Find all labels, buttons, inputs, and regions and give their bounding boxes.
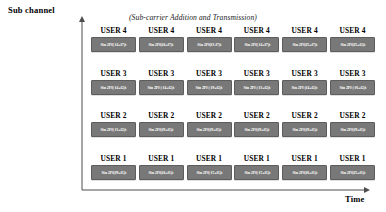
subcarrier-expression: Sin 2Pf(f9+f1)t [340,127,365,132]
subcarrier-expression: Sin 2Pf(f6+f1)t [292,170,317,175]
user-cell[interactable]: USER 1 Sin 2Pf(f5+f1)t [331,154,374,184]
subcarrier-expression: Sin 2Pf(f9+f1)t [197,127,222,132]
user-cell-label: USER 2 [148,111,174,120]
user-cell[interactable]: USER 3 Sin 2Pf( f4+f2)t [92,69,135,99]
user-cell-label: USER 3 [292,69,318,78]
user-cell-label: USER 3 [148,69,174,78]
subcarrier-expression: Sin 2Pf(f3-f7)t [197,42,221,47]
user-cell[interactable]: USER 3 Sin 2Pf ( f4+f2)t [140,69,183,99]
user-cell[interactable]: USER 4 Sin 2Pf(f4+f7)t [140,26,183,56]
subcarrier-expression: Sin 2Pf(f9+f1)t [101,170,126,175]
user-cell[interactable]: USER 2 Sin 2Pf(f9+f1)t [235,111,278,141]
diagram-canvas: Sub channel Time (Sub-carrier Addition a… [0,0,386,212]
user-cell[interactable]: USER 1 Sin 2Pf(f6+f1)t [283,154,326,184]
grid-row: USER 1 Sin 2Pf(f9+f1)t USER 1 Sin 2Pf(f4… [92,154,374,184]
grid-row: USER 3 Sin 2Pf( f4+f2)t USER 3 Sin 2Pf (… [92,69,374,99]
subcarrier-box[interactable]: Sin 2Pf ( f4+f2)t [139,80,184,95]
subcarrier-expression: Sin 2Pf(f9+f1)t [292,127,317,132]
resource-grid: USER 4 Sin 2Pf( f4+f7)t USER 4 Sin 2Pf(f… [92,26,374,184]
subcarrier-box[interactable]: Sin 2Pf ( f3+f2)t [234,80,279,95]
subcarrier-box[interactable]: Sin 2Pf( f4+f7)t [91,37,136,52]
user-cell[interactable]: USER 1 Sin 2Pf(f4+f1)t [140,154,183,184]
user-cell-label: USER 4 [292,26,318,35]
subcarrier-expression: Sin 2Pf(f4+f7)t [149,42,174,47]
subcarrier-expression: Sin 2Pf (f4+f2)t [292,85,318,90]
subcarrier-expression: Sin 2Pf(f4+f1)t [149,170,174,175]
subcarrier-expression: Sin 2Pf(f9+f1)t [149,127,174,132]
user-cell-label: USER 4 [196,26,222,35]
user-cell-label: USER 1 [339,154,365,163]
user-cell-label: USER 2 [100,111,126,120]
subcarrier-expression: Sin 2Pf( f4+f7)t [101,42,127,47]
subcarrier-box[interactable]: Sin 2Pf( f5+f1)t [187,165,232,180]
user-cell[interactable]: USER 3 Sin 2Pf (f4+f2)t [283,69,326,99]
user-cell-label: USER 2 [244,111,270,120]
subcarrier-box[interactable]: Sin 2Pf(f5+f2)t [330,37,375,52]
subcarrier-box[interactable]: Sin 2Pf ( f9+f2)t [187,80,232,95]
user-cell-label: USER 3 [339,69,365,78]
subcarrier-box[interactable]: Sin 2Pf(f6+f1)t [282,165,327,180]
x-axis-label: Time [345,194,365,204]
subcarrier-box[interactable]: Sin 2Pf ( f6+f2)t [330,80,375,95]
user-cell[interactable]: USER 4 Sin 2Pf(f5+f7)t [283,26,326,56]
user-cell[interactable]: USER 3 Sin 2Pf ( f9+f2)t [188,69,231,99]
subcarrier-box[interactable]: Sin 2Pf(f9+f1)t [330,122,375,137]
subcarrier-expression: Sin 2Pf(f5+f1)t [340,170,365,175]
subcarrier-expression: Sin 2Pf( f5+f1)t [196,170,222,175]
subcarrier-expression: Sin 2Pf(f5+f2)t [340,42,365,47]
user-cell[interactable]: USER 4 Sin 2Pf(f5+f2)t [331,26,374,56]
subcarrier-expression: Sin 2Pf( f4+f2)t [101,85,127,90]
subcarrier-box[interactable]: Sin 2Pf( f1+f2)t [91,122,136,137]
subcarrier-box[interactable]: Sin 2Pf( f5+f1)t [234,165,279,180]
user-cell-label: USER 4 [100,26,126,35]
subcarrier-box[interactable]: Sin 2Pf(f4+f1)t [139,165,184,180]
subcarrier-box[interactable]: Sin 2Pf( f4+f7)t [234,37,279,52]
subcarrier-expression: Sin 2Pf( f4+f7)t [244,42,270,47]
subcarrier-box[interactable]: Sin 2Pf(f5+f1)t [330,165,375,180]
subcarrier-expression: Sin 2Pf(f9+f1)t [244,127,269,132]
user-cell[interactable]: USER 3 Sin 2Pf ( f3+f2)t [235,69,278,99]
user-cell[interactable]: USER 2 Sin 2Pf(f9+f1)t [188,111,231,141]
user-cell[interactable]: USER 4 Sin 2Pf(f3-f7)t [188,26,231,56]
subcarrier-box[interactable]: Sin 2Pf( f4+f2)t [91,80,136,95]
subcarrier-box[interactable]: Sin 2Pf(f9+f1)t [91,165,136,180]
user-cell-label: USER 1 [292,154,318,163]
user-cell[interactable]: USER 4 Sin 2Pf( f4+f7)t [92,26,135,56]
subcarrier-expression: Sin 2Pf ( f9+f2)t [196,85,223,90]
user-cell-label: USER 1 [100,154,126,163]
user-cell-label: USER 2 [292,111,318,120]
user-cell[interactable]: USER 3 Sin 2Pf ( f6+f2)t [331,69,374,99]
user-cell-label: USER 1 [148,154,174,163]
grid-row: USER 2 Sin 2Pf( f1+f2)t USER 2 Sin 2Pf(f… [92,111,374,141]
user-cell-label: USER 1 [196,154,222,163]
user-cell[interactable]: USER 2 Sin 2Pf(f9+f1)t [140,111,183,141]
subcarrier-expression: Sin 2Pf ( f6+f2)t [339,85,366,90]
subcarrier-expression: Sin 2Pf ( f3+f2)t [243,85,270,90]
user-cell-label: USER 4 [244,26,270,35]
subcarrier-expression: Sin 2Pf( f1+f2)t [101,127,127,132]
grid-row: USER 4 Sin 2Pf( f4+f7)t USER 4 Sin 2Pf(f… [92,26,374,56]
subcarrier-box[interactable]: Sin 2Pf(f3-f7)t [187,37,232,52]
subcarrier-box[interactable]: Sin 2Pf(f9+f1)t [282,122,327,137]
user-cell-label: USER 4 [339,26,365,35]
user-cell-label: USER 2 [339,111,365,120]
subcarrier-box[interactable]: Sin 2Pf (f4+f2)t [282,80,327,95]
user-cell[interactable]: USER 1 Sin 2Pf( f5+f1)t [188,154,231,184]
user-cell[interactable]: USER 2 Sin 2Pf(f9+f1)t [331,111,374,141]
user-cell-label: USER 3 [244,69,270,78]
subcarrier-box[interactable]: Sin 2Pf(f9+f1)t [187,122,232,137]
user-cell[interactable]: USER 1 Sin 2Pf(f9+f1)t [92,154,135,184]
user-cell[interactable]: USER 2 Sin 2Pf( f1+f2)t [92,111,135,141]
subcarrier-expression: Sin 2Pf( f5+f1)t [244,170,270,175]
user-cell[interactable]: USER 2 Sin 2Pf(f9+f1)t [283,111,326,141]
subcarrier-box[interactable]: Sin 2Pf(f9+f1)t [234,122,279,137]
subcarrier-box[interactable]: Sin 2Pf(f5+f7)t [282,37,327,52]
user-cell[interactable]: USER 4 Sin 2Pf( f4+f7)t [235,26,278,56]
user-cell[interactable]: USER 1 Sin 2Pf( f5+f1)t [235,154,278,184]
user-cell-label: USER 2 [196,111,222,120]
subcarrier-box[interactable]: Sin 2Pf(f9+f1)t [139,122,184,137]
user-cell-label: USER 4 [148,26,174,35]
user-cell-label: USER 3 [100,69,126,78]
subcarrier-box[interactable]: Sin 2Pf(f4+f7)t [139,37,184,52]
user-cell-label: USER 3 [196,69,222,78]
